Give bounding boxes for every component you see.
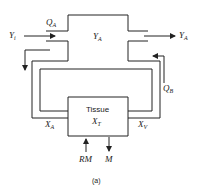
left-flow-arrow — [25, 50, 50, 70]
label-xv: XV — [138, 120, 147, 130]
label-ya-out: YA — [179, 31, 188, 41]
label-qb: QB — [163, 84, 173, 94]
label-rm: RM — [79, 155, 92, 164]
label-tissue: Tissue — [86, 106, 109, 114]
label-m: M — [105, 155, 113, 164]
label-xt: XT — [92, 117, 101, 127]
outer-circulation-loop — [32, 61, 68, 118]
compartment-diagram — [0, 0, 200, 192]
label-yi: Yi — [9, 31, 16, 41]
alveolar-compartment — [46, 15, 148, 31]
label-qa: QA — [46, 18, 56, 28]
label-xa: XA — [45, 120, 54, 130]
label-ya-center: YA — [93, 32, 102, 42]
figure-caption: (a) — [92, 177, 101, 184]
qb-flow-arrow — [153, 56, 164, 83]
